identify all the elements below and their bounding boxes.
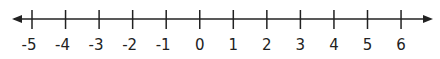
tick-label: 5 xyxy=(363,36,373,54)
tick-label: 6 xyxy=(396,36,406,54)
tick-label: -3 xyxy=(89,36,104,54)
tick-label: 4 xyxy=(329,36,339,54)
right-arrow-icon xyxy=(423,15,433,23)
tick-label: -2 xyxy=(122,36,137,54)
tick-label: -1 xyxy=(156,36,171,54)
tick-label: 0 xyxy=(195,36,205,54)
left-arrow-icon xyxy=(12,15,22,23)
tick-label: -4 xyxy=(55,36,70,54)
tick-label: 1 xyxy=(229,36,239,54)
tick-label: 2 xyxy=(262,36,272,54)
tick-label: 3 xyxy=(296,36,306,54)
tick-label: -5 xyxy=(22,36,37,54)
